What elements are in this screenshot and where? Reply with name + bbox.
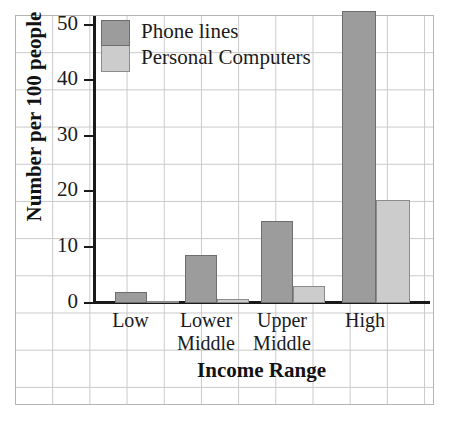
- y-tick-mark: [84, 190, 93, 192]
- x-tick-label-upper-middle: Upper Middle: [244, 309, 320, 355]
- chart-legend: Phone lines Personal Computers: [101, 18, 311, 72]
- bar-phone-lines-high: [342, 11, 376, 303]
- legend-label-personal-computers: Personal Computers: [141, 44, 311, 70]
- bar-phone-lines-lower-middle: [185, 255, 217, 303]
- y-tick-mark: [84, 24, 93, 26]
- y-axis-title: Number per 100 people: [22, 0, 47, 237]
- y-tick-mark: [84, 79, 93, 81]
- x-tick-label-high-line1: High: [320, 309, 410, 332]
- x-tick-label-lower-middle-line2: Middle: [168, 332, 244, 355]
- bar-phone-lines-upper-middle: [261, 221, 293, 303]
- x-tick-label-high: High: [320, 309, 410, 332]
- y-tick-mark: [84, 135, 93, 137]
- x-tick-label-lower-middle-line1: Lower: [168, 309, 244, 332]
- legend-swatches: [101, 20, 130, 72]
- bar-phone-lines-low: [115, 292, 147, 303]
- x-tick-label-low-line1: Low: [93, 309, 168, 332]
- x-tick-label-upper-middle-line1: Upper: [244, 309, 320, 332]
- x-axis-title: Income Range: [93, 358, 430, 383]
- y-tick-mark: [84, 246, 93, 248]
- y-tick-label-0: 0: [38, 291, 78, 312]
- bar-chart-figure: 0 10 20 30 40 50 Number per 100 people L…: [0, 0, 450, 421]
- legend-labels: Phone lines Personal Computers: [141, 18, 311, 70]
- x-tick-label-lower-middle: Lower Middle: [168, 309, 244, 355]
- legend-swatch-phone-lines: [101, 20, 130, 46]
- y-tick-mark: [84, 302, 93, 304]
- y-tick-label-10: 10: [38, 235, 78, 256]
- x-tick-label-upper-middle-line2: Middle: [244, 332, 320, 355]
- x-tick-label-low: Low: [93, 309, 168, 332]
- bar-personal-computers-high: [376, 200, 410, 303]
- legend-swatch-personal-computers: [101, 46, 130, 72]
- bar-group-high: [320, 16, 410, 303]
- legend-label-phone-lines: Phone lines: [141, 18, 311, 44]
